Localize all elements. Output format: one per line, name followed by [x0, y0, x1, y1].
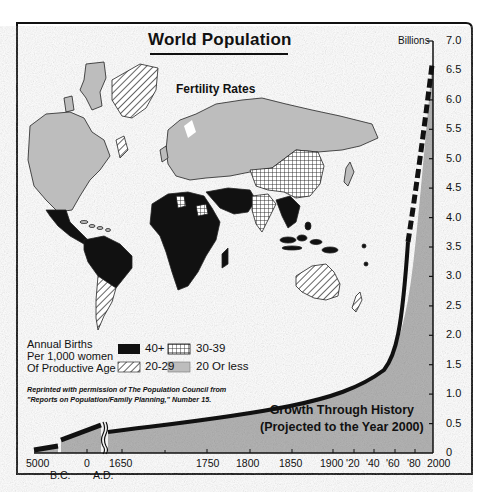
- swatch-20-29: [118, 362, 140, 372]
- credit-line: Reprinted with permission of The Populat…: [27, 385, 226, 395]
- x-tick-label: '20: [346, 457, 360, 469]
- y-tick-label: 3.5: [446, 240, 461, 252]
- legend-label-20-or-less: 20 Or less: [196, 360, 248, 372]
- x-tick-label: '80: [407, 457, 421, 469]
- annotation-line: Growth Through History: [260, 402, 424, 419]
- credit-note: Reprinted with permission of The Populat…: [27, 385, 226, 405]
- x-tick-label: '40: [366, 457, 380, 469]
- y-tick-label: 6.5: [446, 63, 461, 75]
- y-tick-label: 6.0: [446, 93, 461, 105]
- x-tick-label: 5000: [26, 457, 49, 469]
- region-south-america-north: [84, 236, 132, 288]
- legend-heading-line: Per 1,000 women: [27, 350, 116, 362]
- swatch-30-39: [168, 344, 190, 354]
- region-arctic-islands: [80, 62, 106, 110]
- region-australia: [296, 264, 340, 300]
- y-tick-label: 5.5: [446, 122, 461, 134]
- legend-label-30-39: 30-39: [196, 342, 225, 354]
- y-tick-label: 2.5: [446, 299, 461, 311]
- axis-break-1: [102, 422, 105, 454]
- region-india: [252, 194, 276, 232]
- region-north-america: [28, 112, 110, 212]
- x-era-label-bc: B.C.: [50, 469, 70, 481]
- x-tick-label: 1800: [236, 457, 259, 469]
- legend-label-20-29: 20-29: [145, 360, 174, 372]
- y-tick-label: 2.0: [446, 328, 461, 340]
- region-central-america: [46, 210, 88, 244]
- figure: World Population Fertility Rates Annual …: [0, 0, 490, 500]
- y-tick-label: 7.0: [446, 34, 461, 46]
- y-tick-label: 4.0: [446, 211, 461, 223]
- region-new-zealand: [352, 292, 362, 312]
- legend-heading-line: Annual Births: [27, 338, 116, 350]
- y-tick-label: 0.5: [446, 417, 461, 429]
- x-tick-label: 0: [84, 457, 90, 469]
- x-tick-label: 2000: [427, 457, 450, 469]
- annotation-line: (Projected to the Year 2000): [260, 419, 424, 436]
- y-tick-label: 1.5: [446, 358, 461, 370]
- region-southeast-asia: [276, 196, 300, 228]
- region-japan: [344, 162, 354, 186]
- region-africa: [150, 192, 220, 290]
- chart-title: World Population: [148, 30, 292, 50]
- legend-heading: Annual Births Per 1,000 women Of Product…: [27, 338, 116, 374]
- map-title: Fertility Rates: [176, 82, 255, 96]
- region-greenland: [112, 64, 158, 118]
- legend-heading-line: Of Productive Age: [27, 362, 116, 374]
- region-uk: [160, 146, 168, 162]
- x-tick-label: 1900: [320, 457, 343, 469]
- y-tick-label: 1.0: [446, 387, 461, 399]
- title-underline: [150, 53, 288, 55]
- y-tick-label: 5.0: [446, 152, 461, 164]
- credit-line: "Reports on Population/Family Planning,"…: [27, 395, 226, 405]
- x-era-label-ad: A.D.: [93, 469, 113, 481]
- y-axis-label: Billions: [398, 35, 430, 46]
- growth-annotation: Growth Through History (Projected to the…: [260, 402, 424, 436]
- y-tick-label: 3.0: [446, 269, 461, 281]
- x-tick-label: 1750: [196, 457, 219, 469]
- x-tick-label: '60: [386, 457, 400, 469]
- x-tick-label: 1650: [109, 457, 132, 469]
- world-map: [28, 62, 378, 330]
- x-tick-label: 1850: [279, 457, 302, 469]
- region-madagascar: [222, 248, 228, 268]
- swatch-40plus: [118, 344, 140, 354]
- y-tick-label: 4.5: [446, 181, 461, 193]
- legend-label-40plus: 40+: [145, 342, 165, 354]
